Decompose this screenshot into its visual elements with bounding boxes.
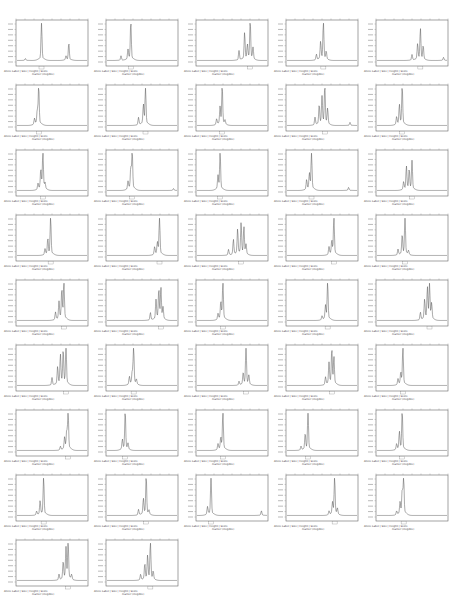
- electropherogram-panel: Allele Label | Size | Height | Scoremark…: [92, 404, 182, 469]
- marker-label: marker (illegible): [32, 138, 54, 141]
- marker-label: marker (illegible): [302, 203, 324, 206]
- marker-label: marker (illegible): [32, 528, 54, 531]
- electropherogram-panel: Allele Label | Size | Height | Scoremark…: [2, 209, 92, 274]
- marker-label: marker (illegible): [212, 528, 234, 531]
- electropherogram-panel: Allele Label | Size | Height | Scoremark…: [182, 339, 272, 404]
- electropherogram-panel: Allele Label | Size | Height | Scoremark…: [362, 339, 452, 404]
- marker-label: marker (illegible): [212, 333, 234, 336]
- electropherogram-panel: Allele Label | Size | Height | Scoremark…: [272, 14, 362, 79]
- electropherogram-panel: Allele Label | Size | Height | Scoremark…: [272, 79, 362, 144]
- electropherogram-panel: Allele Label | Size | Height | Scoremark…: [362, 404, 452, 469]
- marker-label: marker (illegible): [122, 203, 144, 206]
- electropherogram-panel: Allele Label | Size | Height | Scoremark…: [182, 274, 272, 339]
- marker-label: marker (illegible): [122, 73, 144, 76]
- marker-label: marker (illegible): [302, 138, 324, 141]
- marker-label: marker (illegible): [32, 593, 54, 596]
- marker-label: marker (illegible): [122, 463, 144, 466]
- marker-label: marker (illegible): [212, 203, 234, 206]
- electropherogram-panel: Allele Label | Size | Height | Scoremark…: [2, 274, 92, 339]
- marker-label: marker (illegible): [32, 398, 54, 401]
- electropherogram-panel: Allele Label | Size | Height | Scoremark…: [362, 469, 452, 534]
- marker-label: marker (illegible): [302, 463, 324, 466]
- electropherogram-panel: Allele Label | Size | Height | Scoremark…: [2, 339, 92, 404]
- marker-label: marker (illegible): [302, 333, 324, 336]
- marker-label: marker (illegible): [32, 333, 54, 336]
- electropherogram-panel: Allele Label | Size | Height | Scoremark…: [2, 14, 92, 79]
- electropherogram-panel: Allele Label | Size | Height | Scoremark…: [2, 469, 92, 534]
- electropherogram-panel: Allele Label | Size | Height | Scoremark…: [92, 274, 182, 339]
- marker-label: marker (illegible): [302, 528, 324, 531]
- marker-label: marker (illegible): [392, 268, 414, 271]
- electropherogram-panel: Allele Label | Size | Height | Scoremark…: [272, 209, 362, 274]
- marker-label: marker (illegible): [32, 203, 54, 206]
- marker-label: marker (illegible): [302, 268, 324, 271]
- electropherogram-panel: Allele Label | Size | Height | Scoremark…: [272, 339, 362, 404]
- electropherogram-panel: Allele Label | Size | Height | Scoremark…: [362, 274, 452, 339]
- marker-label: marker (illegible): [392, 73, 414, 76]
- marker-label: marker (illegible): [212, 138, 234, 141]
- marker-label: marker (illegible): [122, 528, 144, 531]
- electropherogram-panel: Allele Label | Size | Height | Scoremark…: [362, 14, 452, 79]
- marker-label: marker (illegible): [32, 463, 54, 466]
- electropherogram-panel: Allele Label | Size | Height | Scoremark…: [182, 404, 272, 469]
- electropherogram-panel: Allele Label | Size | Height | Scoremark…: [92, 469, 182, 534]
- marker-label: marker (illegible): [122, 138, 144, 141]
- electropherogram-panel: Allele Label | Size | Height | Scoremark…: [182, 209, 272, 274]
- marker-label: marker (illegible): [392, 333, 414, 336]
- marker-label: marker (illegible): [392, 203, 414, 206]
- electropherogram-panel: Allele Label | Size | Height | Scoremark…: [272, 274, 362, 339]
- electropherogram-panel: Allele Label | Size | Height | Scoremark…: [272, 469, 362, 534]
- marker-label: marker (illegible): [32, 268, 54, 271]
- electropherogram-panel: Allele Label | Size | Height | Scoremark…: [92, 144, 182, 209]
- marker-label: marker (illegible): [392, 398, 414, 401]
- electropherogram-panel: Allele Label | Size | Height | Scoremark…: [272, 404, 362, 469]
- electropherogram-panel: Allele Label | Size | Height | Scoremark…: [2, 534, 92, 599]
- electropherogram-panel: Allele Label | Size | Height | Scoremark…: [182, 79, 272, 144]
- electropherogram-panel: Allele Label | Size | Height | Scoremark…: [2, 144, 92, 209]
- marker-label: marker (illegible): [302, 398, 324, 401]
- electropherogram-panel: Allele Label | Size | Height | Scoremark…: [92, 79, 182, 144]
- marker-label: marker (illegible): [122, 398, 144, 401]
- electropherogram-panel: Allele Label | Size | Height | Scoremark…: [182, 14, 272, 79]
- electropherogram-panel: Allele Label | Size | Height | Scoremark…: [92, 14, 182, 79]
- electropherogram-panel: Allele Label | Size | Height | Scoremark…: [182, 144, 272, 209]
- marker-label: marker (illegible): [122, 593, 144, 596]
- marker-label: marker (illegible): [212, 398, 234, 401]
- electropherogram-panel: Allele Label | Size | Height | Scoremark…: [362, 209, 452, 274]
- electropherogram-panel: Allele Label | Size | Height | Scoremark…: [92, 339, 182, 404]
- electropherogram-panel: Allele Label | Size | Height | Scoremark…: [92, 534, 182, 599]
- marker-label: marker (illegible): [302, 73, 324, 76]
- marker-label: marker (illegible): [392, 138, 414, 141]
- electropherogram-panel: Allele Label | Size | Height | Scoremark…: [92, 209, 182, 274]
- electropherogram-panel: Allele Label | Size | Height | Scoremark…: [362, 144, 452, 209]
- electropherogram-panel: Allele Label | Size | Height | Scoremark…: [182, 469, 272, 534]
- marker-label: marker (illegible): [392, 528, 414, 531]
- marker-label: marker (illegible): [212, 463, 234, 466]
- marker-label: marker (illegible): [212, 268, 234, 271]
- electropherogram-panel: Allele Label | Size | Height | Scoremark…: [362, 79, 452, 144]
- marker-label: marker (illegible): [122, 268, 144, 271]
- electropherogram-panel: Allele Label | Size | Height | Scoremark…: [2, 404, 92, 469]
- electropherogram-panel: Allele Label | Size | Height | Scoremark…: [2, 79, 92, 144]
- marker-label: marker (illegible): [122, 333, 144, 336]
- marker-label: marker (illegible): [212, 73, 234, 76]
- marker-label: marker (illegible): [32, 73, 54, 76]
- marker-label: marker (illegible): [392, 463, 414, 466]
- electropherogram-panel: Allele Label | Size | Height | Scoremark…: [272, 144, 362, 209]
